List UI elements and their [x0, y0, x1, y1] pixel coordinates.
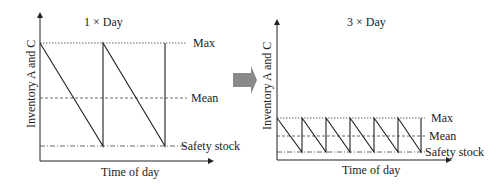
left-safety-label: Safety stock [181, 139, 240, 153]
left-mean-label: Mean [191, 91, 218, 105]
left-title: 1 × Day [84, 15, 123, 29]
left-max-label: Max [193, 36, 215, 50]
inventory-diagram: 1 × Day Max Mean Safety stock Time of da… [0, 0, 504, 184]
right-chart: 3 × Day Max Mean Safety stock Time of da… [260, 15, 484, 177]
right-mean-label: Mean [429, 129, 456, 143]
sawtooth-inventory [40, 43, 165, 146]
right-max-label: Max [431, 111, 453, 125]
right-x-label: Time of day [342, 163, 400, 177]
left-chart: 1 × Day Max Mean Safety stock Time of da… [24, 15, 240, 179]
right-title: 3 × Day [347, 15, 386, 29]
right-y-label: Inventory A and C [260, 42, 274, 130]
left-x-label: Time of day [101, 165, 159, 179]
right-safety-label: Safety stock [425, 145, 484, 159]
transition-arrow-icon [233, 66, 257, 94]
sawtooth-inventory [277, 118, 421, 152]
left-y-label: Inventory A and C [24, 40, 38, 128]
